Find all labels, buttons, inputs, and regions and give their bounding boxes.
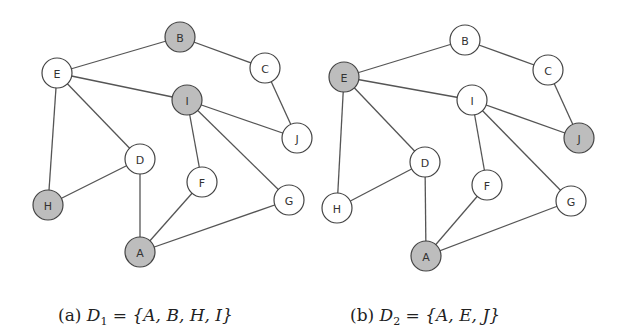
edge-g-a <box>426 201 571 256</box>
caption-a: (a) D1 = {A, B, H, I} <box>58 305 233 328</box>
caption-a-set-name: D <box>87 305 101 325</box>
node-h: H <box>322 193 352 223</box>
node-e: E <box>42 58 72 88</box>
edge-i-j <box>187 100 297 138</box>
node-label: I <box>185 95 188 108</box>
node-d: D <box>125 144 155 174</box>
edge-e-h <box>48 73 57 205</box>
node-label: E <box>341 72 348 85</box>
node-d: D <box>410 147 440 177</box>
node-label: G <box>567 196 576 209</box>
node-c: C <box>533 55 563 85</box>
caption-b-prefix: (b) <box>350 305 374 325</box>
caption-a-equals: = <box>113 305 127 325</box>
node-label: F <box>199 177 205 190</box>
graph-a: ABCDEFGHIJ <box>33 22 312 267</box>
node-label: E <box>54 68 61 81</box>
node-label: J <box>294 133 298 146</box>
node-f: F <box>472 170 502 200</box>
edge-e-h <box>337 77 344 208</box>
node-a: A <box>411 241 441 271</box>
node-g: G <box>274 185 304 215</box>
node-b: B <box>450 25 480 55</box>
node-label: D <box>421 157 429 170</box>
node-label: B <box>176 32 184 45</box>
node-label: B <box>461 35 469 48</box>
graph-figure: ABCDEFGHIJ ABCDEFGHIJ <box>0 0 627 335</box>
caption-b-members: {A, E, J} <box>425 305 500 325</box>
node-label: D <box>136 154 144 167</box>
caption-b: (b) D2 = {A, E, J} <box>350 305 500 328</box>
edge-i-j <box>472 100 579 138</box>
node-g: G <box>556 186 586 216</box>
node-label: C <box>544 65 552 78</box>
caption-b-subscript: 2 <box>393 315 400 328</box>
node-i: I <box>457 85 487 115</box>
node-label: A <box>422 251 430 264</box>
caption-a-subscript: 1 <box>100 315 107 328</box>
node-label: C <box>261 63 269 76</box>
node-label: H <box>333 203 341 216</box>
node-label: A <box>136 247 144 260</box>
edge-e-b <box>57 37 180 73</box>
caption-a-prefix: (a) <box>58 305 81 325</box>
caption-b-set-name: D <box>380 305 394 325</box>
node-label: J <box>576 133 580 146</box>
node-b: B <box>165 22 195 52</box>
edge-e-d <box>57 73 140 159</box>
node-i: I <box>172 85 202 115</box>
node-j: J <box>282 123 312 153</box>
node-e: E <box>329 62 359 92</box>
node-a: A <box>125 237 155 267</box>
node-label: G <box>285 195 294 208</box>
node-label: F <box>484 180 490 193</box>
node-label: H <box>44 200 52 213</box>
node-c: C <box>250 53 280 83</box>
node-h: H <box>33 190 63 220</box>
caption-a-members: {A, B, H, I} <box>133 305 233 325</box>
edge-e-b <box>344 40 465 77</box>
caption-b-equals: = <box>406 305 420 325</box>
graph-b: ABCDEFGHIJ <box>322 25 594 271</box>
node-j: J <box>564 123 594 153</box>
node-label: I <box>470 95 473 108</box>
edge-e-i <box>57 73 187 100</box>
node-f: F <box>187 167 217 197</box>
